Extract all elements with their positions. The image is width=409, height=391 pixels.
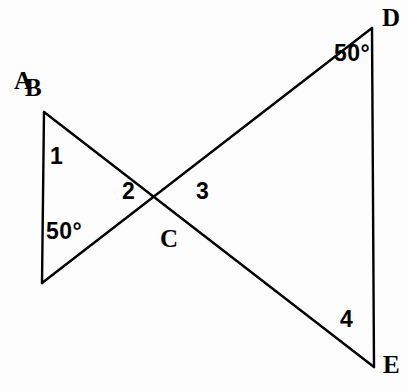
vertex-label-c: C [160, 226, 178, 251]
angle-label-4: 4 [340, 308, 353, 331]
segment-ad [42, 28, 372, 283]
angle-label-3: 3 [196, 180, 209, 203]
vertex-label-b: B [25, 75, 42, 100]
angle-label-2: 2 [122, 180, 135, 203]
geometry-figure: A B C D E 1 2 3 4 50° 50° [0, 0, 409, 391]
angle-measure-a: 50° [46, 220, 82, 243]
angle-measure-d: 50° [334, 42, 370, 65]
angle-label-1: 1 [50, 145, 63, 168]
segment-be [44, 112, 374, 367]
segment-de [372, 28, 374, 367]
vertex-label-e: E [383, 352, 400, 377]
vertex-label-d: D [382, 5, 400, 30]
segment-ab [42, 112, 44, 283]
